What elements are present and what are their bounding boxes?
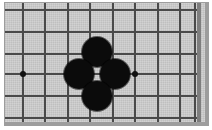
- grid-line-vertical: [157, 3, 159, 122]
- grid-line-horizontal: [5, 9, 197, 11]
- grid-line-horizontal: [5, 31, 197, 33]
- grid-line-vertical: [179, 3, 181, 122]
- go-board[interactable]: [5, 3, 205, 122]
- screenshot-root: [0, 0, 212, 130]
- grid-line-vertical: [134, 3, 136, 122]
- grid-line-vertical: [44, 3, 46, 122]
- hoshi-left-icon: [20, 71, 26, 77]
- hoshi-right-icon: [132, 71, 138, 77]
- grid-line-horizontal: [5, 117, 197, 119]
- grid-line-vertical: [194, 3, 196, 122]
- grid-line-vertical: [22, 3, 24, 122]
- stone-south[interactable]: [82, 81, 112, 111]
- board-edge-right: [197, 3, 201, 122]
